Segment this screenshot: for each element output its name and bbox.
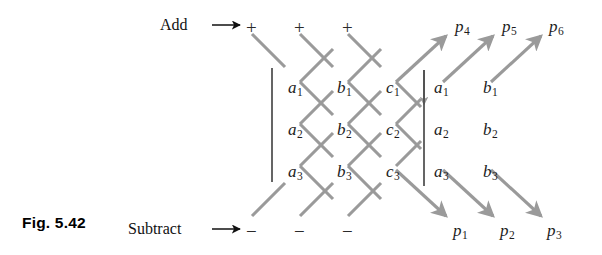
grid-label-c1-left: c1 <box>386 79 400 99</box>
subtract-label: Subtract <box>128 221 181 237</box>
output-base-p2: p <box>500 221 509 240</box>
output-label-p3: p3 <box>547 222 562 242</box>
grid-label-b3-right: b3 <box>483 163 498 183</box>
grid-label-c2-left: c2 <box>386 121 400 141</box>
output-base-p1: p <box>453 221 462 240</box>
output-base-p6: p <box>549 17 558 36</box>
subtract-operator-2: − <box>294 222 305 241</box>
output-label-p2: p2 <box>500 222 515 242</box>
figure-5-42: Fig. 5.42 Add Subtract + + + − − − p4 p5… <box>0 0 602 255</box>
output-label-p5: p5 <box>502 18 517 38</box>
add-label: Add <box>160 17 188 33</box>
grid-label-a3-left: a3 <box>288 163 303 183</box>
grid-label-b2-right: b2 <box>483 121 498 141</box>
add-operator-2: + <box>294 18 305 37</box>
grid-label-a2-right: a2 <box>434 121 449 141</box>
grid-label-b2-left: b2 <box>337 121 352 141</box>
subtract-operator-1: − <box>246 222 257 241</box>
grid-label-c3-left: c3 <box>386 163 400 183</box>
figure-caption: Fig. 5.42 <box>22 215 86 231</box>
output-label-p1: p1 <box>453 222 468 242</box>
output-sub-p1: 1 <box>462 229 468 241</box>
output-label-p4: p4 <box>455 18 470 38</box>
output-base-p5: p <box>502 17 511 36</box>
output-label-p6: p6 <box>549 18 564 38</box>
output-sub-p6: 6 <box>558 25 564 37</box>
grid-label-a3-right: a3 <box>434 163 449 183</box>
grid-label-a2-left: a2 <box>288 121 303 141</box>
grid-label-b3-left: b3 <box>337 163 352 183</box>
grid-label-b1-right: b1 <box>483 79 498 99</box>
output-sub-p3: 3 <box>556 229 562 241</box>
output-sub-p2: 2 <box>509 229 515 241</box>
output-sub-p4: 4 <box>464 25 470 37</box>
grid-label-b1-left: b1 <box>337 79 352 99</box>
output-base-p4: p <box>455 17 464 36</box>
subtract-operator-3: − <box>342 222 353 241</box>
descending-output-arrows <box>396 170 541 216</box>
output-sub-p5: 5 <box>511 25 517 37</box>
add-operator-3: + <box>342 18 353 37</box>
ascending-output-arrows <box>396 36 541 82</box>
output-base-p3: p <box>547 221 556 240</box>
grid-label-a1-right: a1 <box>434 79 449 99</box>
add-operator-1: + <box>246 18 257 37</box>
grid-label-a1-left: a1 <box>288 79 303 99</box>
